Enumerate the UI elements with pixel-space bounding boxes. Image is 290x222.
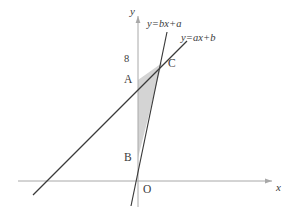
equation-label-shallow-line: y=ax+b (181, 33, 216, 44)
steep-line-bx-plus-a (131, 32, 167, 206)
y-tick-label-8: 8 (124, 54, 129, 65)
x-axis-arrowhead (265, 179, 272, 184)
equation-label-steep-line: y=bx+a (147, 19, 182, 30)
point-label-b: B (124, 152, 132, 164)
point-label-c: C (168, 58, 176, 70)
shallow-line-ax-plus-b (33, 41, 187, 195)
x-axis-label: x (276, 182, 281, 193)
y-axis-label: y (130, 6, 135, 17)
origin-label: O (143, 184, 151, 196)
point-label-a: A (124, 74, 132, 86)
coordinate-geometry-figure: y x O 8 A B C y=bx+a y=ax+b (0, 0, 290, 222)
y-axis-arrowhead (136, 16, 141, 23)
